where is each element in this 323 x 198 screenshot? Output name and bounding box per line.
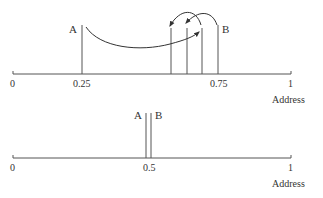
marker-label-a-bottom: A xyxy=(134,109,142,121)
axis-label-address-bottom: Address xyxy=(272,178,305,189)
axis-label-address-top: Address xyxy=(272,94,305,105)
arrow-third-to-first xyxy=(170,12,201,26)
tick-label-1: 1 xyxy=(288,78,293,89)
arrow-a-to-third xyxy=(86,27,199,48)
marker-label-a: A xyxy=(69,23,77,35)
address-diagram: A B 0 0.25 0.75 1 Address A B 0 0.5 1 Ad… xyxy=(0,0,323,198)
tick-label-1-bottom: 1 xyxy=(288,162,293,173)
bottom-panel: A B 0 0.5 1 Address xyxy=(10,109,305,189)
marker-label-b: B xyxy=(222,23,229,35)
top-panel: A B 0 0.25 0.75 1 Address xyxy=(10,12,305,105)
tick-label-075: 0.75 xyxy=(210,78,228,89)
arrow-b-to-second xyxy=(186,13,217,25)
tick-label-0: 0 xyxy=(10,78,15,89)
marker-label-b-bottom: B xyxy=(155,109,162,121)
tick-label-025: 0.25 xyxy=(73,78,91,89)
tick-label-0-bottom: 0 xyxy=(10,162,15,173)
tick-label-05-bottom: 0.5 xyxy=(143,162,156,173)
